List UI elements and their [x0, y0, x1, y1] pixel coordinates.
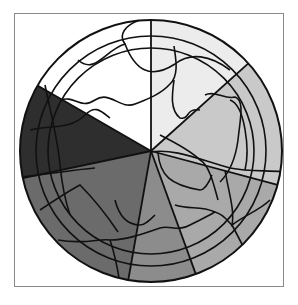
stained-glass-wheel — [0, 0, 298, 305]
